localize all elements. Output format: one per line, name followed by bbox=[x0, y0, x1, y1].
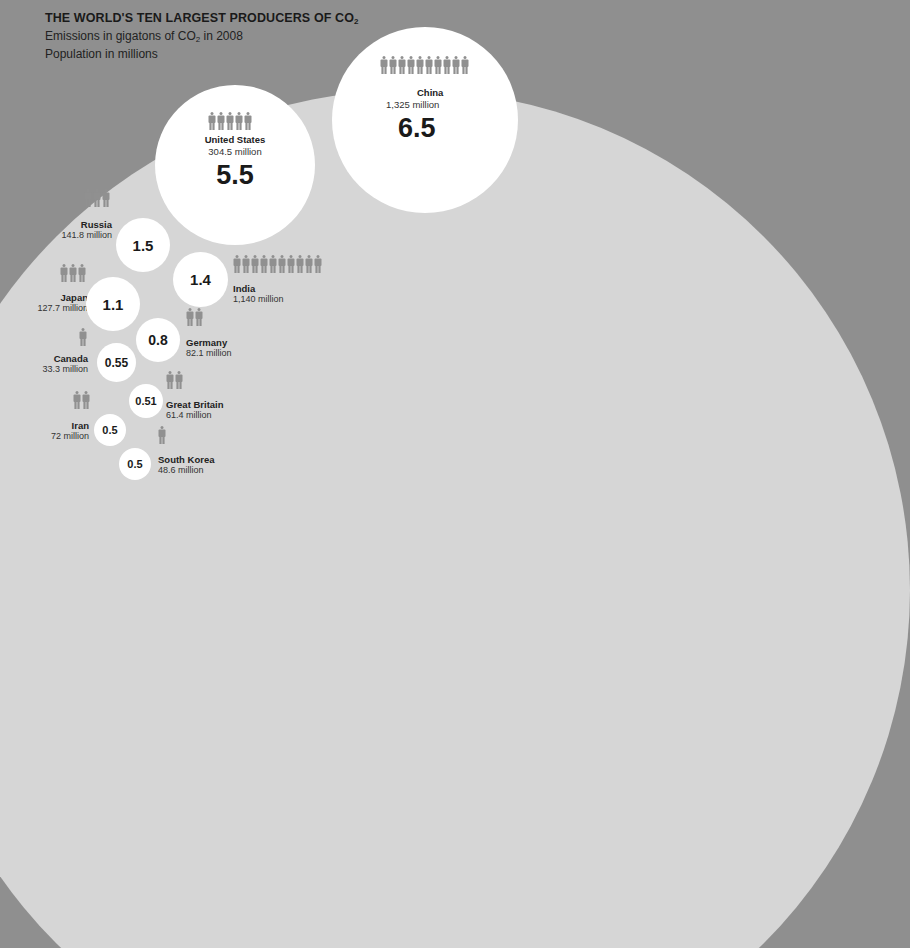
figures-iran bbox=[73, 391, 90, 409]
person-icon bbox=[60, 264, 68, 282]
bubble-iran: 0.5 bbox=[94, 414, 126, 446]
chart-subtitle-emissions: Emissions in gigatons of CO2 in 2008 bbox=[45, 29, 359, 47]
person-icon bbox=[69, 264, 77, 282]
label-canada: Canada 33.3 million bbox=[42, 353, 88, 375]
person-icon bbox=[314, 255, 322, 273]
person-icon bbox=[443, 56, 451, 74]
person-icon bbox=[425, 56, 433, 74]
bubble-south-korea: 0.5 bbox=[119, 448, 151, 480]
label-china: China 1,325 million 6.5 bbox=[380, 87, 480, 143]
person-icon bbox=[158, 426, 166, 444]
person-icon bbox=[416, 56, 424, 74]
person-icon bbox=[452, 56, 460, 74]
person-icon bbox=[78, 264, 86, 282]
person-icon bbox=[226, 112, 234, 130]
figures-germany bbox=[186, 308, 203, 326]
bubble-russia: 1.5 bbox=[116, 218, 170, 272]
figures-russia bbox=[84, 189, 110, 207]
bubble-japan: 1.1 bbox=[86, 277, 140, 331]
person-icon bbox=[305, 255, 313, 273]
person-icon bbox=[79, 328, 87, 346]
value-united-states: 5.5 bbox=[185, 160, 285, 190]
person-icon bbox=[278, 255, 286, 273]
person-icon bbox=[244, 112, 252, 130]
label-india: India 1,140 million bbox=[233, 283, 284, 305]
label-russia: Russia 141.8 million bbox=[61, 219, 112, 241]
person-icon bbox=[175, 371, 183, 389]
bubble-germany: 0.8 bbox=[136, 318, 180, 362]
person-icon bbox=[434, 56, 442, 74]
value-china: 6.5 bbox=[380, 113, 480, 143]
chart-header: THE WORLD'S TEN LARGEST PRODUCERS OF CO2… bbox=[45, 11, 359, 61]
figures-japan bbox=[60, 264, 86, 282]
figures-china bbox=[380, 56, 469, 74]
bubble-great-britain: 0.51 bbox=[129, 384, 163, 418]
person-icon bbox=[217, 112, 225, 130]
figures-united-states bbox=[208, 112, 252, 130]
person-icon bbox=[260, 255, 268, 273]
person-icon bbox=[73, 391, 81, 409]
figures-canada bbox=[79, 328, 87, 346]
person-icon bbox=[166, 371, 174, 389]
label-united-states: United States 304.5 million 5.5 bbox=[185, 134, 285, 190]
chart-title: THE WORLD'S TEN LARGEST PRODUCERS OF CO2 bbox=[45, 11, 359, 29]
person-icon bbox=[235, 112, 243, 130]
figures-south-korea bbox=[158, 426, 166, 444]
bubble-india: 1.4 bbox=[173, 252, 228, 307]
person-icon bbox=[269, 255, 277, 273]
person-icon bbox=[84, 189, 92, 207]
person-icon bbox=[296, 255, 304, 273]
person-icon bbox=[389, 56, 397, 74]
figures-great-britain bbox=[166, 371, 183, 389]
person-icon bbox=[186, 308, 194, 326]
label-iran: Iran 72 million bbox=[51, 420, 89, 442]
person-icon bbox=[407, 56, 415, 74]
person-icon bbox=[102, 189, 110, 207]
person-icon bbox=[461, 56, 469, 74]
person-icon bbox=[242, 255, 250, 273]
person-icon bbox=[398, 56, 406, 74]
label-south-korea: South Korea 48.6 million bbox=[158, 454, 214, 476]
person-icon bbox=[287, 255, 295, 273]
figures-india bbox=[233, 255, 322, 273]
person-icon bbox=[380, 56, 388, 74]
label-great-britain: Great Britain 61.4 million bbox=[166, 399, 224, 421]
person-icon bbox=[251, 255, 259, 273]
chart-subtitle-population: Population in millions bbox=[45, 47, 359, 61]
label-germany: Germany 82.1 million bbox=[186, 337, 232, 359]
person-icon bbox=[233, 255, 241, 273]
label-japan: Japan 127.7 million bbox=[37, 292, 88, 314]
person-icon bbox=[93, 189, 101, 207]
bubble-canada: 0.55 bbox=[97, 343, 136, 382]
person-icon bbox=[82, 391, 90, 409]
person-icon bbox=[208, 112, 216, 130]
person-icon bbox=[195, 308, 203, 326]
